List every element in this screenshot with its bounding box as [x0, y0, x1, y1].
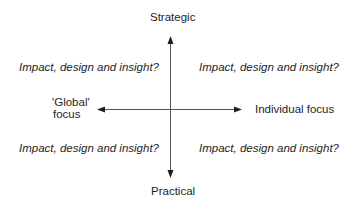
arrow-left-icon	[97, 107, 105, 113]
quadrant-top-left-text: Impact, design and insight?	[19, 61, 159, 74]
quadrant-bottom-left-text: Impact, design and insight?	[19, 142, 159, 155]
quadrant-top-right-text: Impact, design and insight?	[199, 61, 339, 74]
arrow-right-icon	[234, 107, 242, 113]
axis-label-practical: Practical	[151, 185, 195, 198]
quadrant-bottom-right-text: Impact, design and insight?	[199, 142, 339, 155]
arrow-down-icon	[168, 170, 174, 178]
arrow-up-icon	[168, 36, 174, 44]
axis-label-global-line2: focus	[53, 108, 81, 121]
axis-label-individual-focus: Individual focus	[255, 103, 334, 116]
axis-label-strategic: Strategic	[150, 11, 195, 24]
